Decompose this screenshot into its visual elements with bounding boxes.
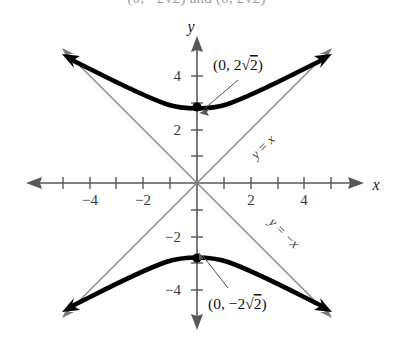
y-tick-label--4: −4 xyxy=(165,282,181,298)
y-tick-label-2: 2 xyxy=(174,122,182,138)
svg-text:(0, 2√2): (0, 2√2) xyxy=(213,56,263,74)
y-tick-label-4: 4 xyxy=(174,68,182,84)
y-tick-label--2: −2 xyxy=(165,229,181,245)
x-axis-left-arrowhead xyxy=(26,177,42,189)
annotation-lower-close: ) xyxy=(261,295,266,313)
x-tick-label-2: 2 xyxy=(247,192,255,208)
asymptote-label-y-equals-negative-x: y = −x xyxy=(264,213,302,251)
hyperbola-figure: (0, −2√2) and (0, 2√2) xyxy=(0,0,393,346)
svg-text:(0, −2√2): (0, −2√2) xyxy=(208,295,267,313)
x-axis-right-arrowhead xyxy=(348,177,364,189)
annotation-upper-vertex: (0, 2√2) xyxy=(213,56,263,74)
coordinate-plane: −4 −2 2 4 4 2 −2 −4 x y (0, 2√2) (0, −2√… xyxy=(0,0,393,346)
x-tick-label-4: 4 xyxy=(300,192,308,208)
asymptote-label-y-equals-x: y = x xyxy=(246,132,278,164)
annotation-lower-radicand: 2 xyxy=(254,295,262,312)
annotation-lower-vertex: (0, −2√2) xyxy=(208,295,267,313)
vertex-dot-upper xyxy=(192,102,201,111)
annotation-upper-open: (0, 2 xyxy=(213,56,241,74)
y-axis-top-arrowhead xyxy=(191,36,203,52)
annotation-upper-close: ) xyxy=(258,56,263,74)
annotation-lower-open: (0, −2 xyxy=(208,295,245,313)
annotation-upper-radicand: 2 xyxy=(250,56,258,73)
y-axis-label: y xyxy=(185,18,195,36)
x-tick-label--4: −4 xyxy=(82,192,98,208)
x-axis-label: x xyxy=(371,176,379,193)
x-tick-label--2: −2 xyxy=(135,192,151,208)
y-axis-bottom-arrowhead xyxy=(191,314,203,330)
